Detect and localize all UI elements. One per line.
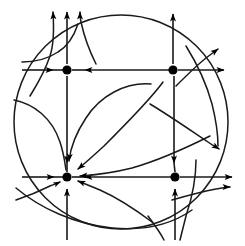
axis-seg-right-vert	[174, 163, 175, 172]
trajectory-leftshoulder-to-sink	[14, 100, 66, 170]
equilibrium-point-bottom-right	[170, 172, 179, 181]
trajectory-upperleft-stub	[22, 24, 78, 62]
trajectory-upperright-exit	[176, 49, 218, 86]
equilibrium-point-bottom-left	[62, 172, 71, 181]
equilibrium-point-top-left	[62, 65, 71, 74]
phase-portrait-canvas: Phase portrait with four equilibrium poi…	[0, 0, 245, 246]
trajectory-top-exit-left	[30, 12, 54, 96]
separatrix-right-to-bottomleft	[80, 136, 210, 176]
boundary-circle-group	[14, 15, 228, 229]
phase-portrait-figure: Phase portrait with four equilibrium poi…	[0, 0, 245, 246]
separatrix-lower-to-bottomleft	[78, 82, 163, 169]
separatrix-lowerright-to-bottomleft	[78, 181, 152, 222]
trajectory-bottom-stub	[148, 216, 164, 240]
trajectory-midright-exit	[150, 104, 219, 149]
bottom-trajectories	[16, 188, 192, 240]
separatrix-upper-to-bottomleft	[69, 84, 151, 161]
equilibrium-point-top-right	[168, 65, 177, 74]
interior-separatrices	[16, 82, 210, 222]
top-exit-trajectories	[30, 12, 96, 96]
boundary-circle	[14, 15, 228, 229]
vertical-axis-right	[173, 14, 175, 240]
separatrix-lowerleft-to-bottomleft	[16, 182, 60, 200]
